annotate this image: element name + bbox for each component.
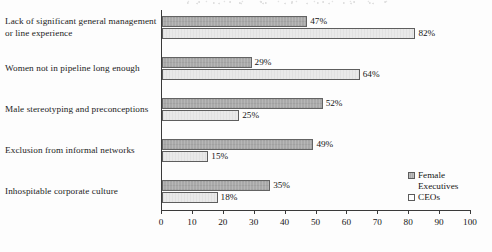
legend-label-line: Female	[418, 170, 458, 181]
x-axis-tick	[316, 210, 317, 214]
x-axis-tick-label: 30	[249, 216, 258, 228]
category-label: Inhospitable corporate culture	[5, 186, 157, 197]
bar	[162, 192, 218, 203]
x-axis-tick	[192, 210, 193, 214]
x-axis-tick-label: 40	[280, 216, 289, 228]
bar	[162, 151, 208, 162]
scan-noise-artifact	[180, 0, 390, 5]
bar-value-label: 29%	[255, 57, 272, 68]
legend-swatch	[408, 194, 415, 201]
category-label: Exclusion from informal networks	[5, 145, 157, 156]
bar	[162, 180, 270, 191]
x-axis-tick-label: 20	[218, 216, 227, 228]
x-axis-tick-label: 60	[342, 216, 351, 228]
x-axis-tick	[161, 210, 162, 214]
x-axis-tick	[254, 210, 255, 214]
chart-legend: FemaleExecutivesCEOs	[408, 170, 486, 204]
x-axis-tick-label: 0	[159, 216, 164, 228]
x-axis-tick-label: 50	[311, 216, 320, 228]
legend-swatch	[408, 172, 415, 179]
x-axis-tick	[470, 210, 471, 214]
legend-item: FemaleExecutives	[408, 170, 486, 191]
category-axis-labels: Lack of significant general managementor…	[0, 10, 158, 210]
bar-value-label: 25%	[242, 110, 259, 121]
category-label-line: Women not in pipeline long enough	[5, 63, 157, 74]
bar	[162, 139, 313, 150]
legend-label-line: Executives	[418, 181, 458, 192]
bar-value-label: 64%	[363, 69, 380, 80]
x-axis-tick-label: 80	[404, 216, 413, 228]
legend-item: CEOs	[408, 192, 486, 203]
bar	[162, 69, 360, 80]
x-axis-tick	[377, 210, 378, 214]
x-axis-tick-label: 90	[435, 216, 444, 228]
category-label-line: Exclusion from informal networks	[5, 145, 157, 156]
category-label-line: Lack of significant general management	[5, 16, 157, 27]
bar	[162, 16, 307, 27]
x-axis-tick	[408, 210, 409, 214]
bar-value-label: 52%	[326, 98, 343, 109]
bar	[162, 28, 415, 39]
bar-group: 49%15%	[162, 139, 470, 162]
bar	[162, 57, 252, 68]
bar	[162, 110, 239, 121]
legend-label-line: CEOs	[418, 192, 440, 203]
category-label-line: Inhospitable corporate culture	[5, 186, 157, 197]
legend-label: CEOs	[418, 192, 440, 203]
category-label: Lack of significant general managementor…	[5, 16, 157, 39]
x-axis-tick	[439, 210, 440, 214]
bar-value-label: 18%	[221, 192, 238, 203]
legend-label: FemaleExecutives	[418, 170, 458, 191]
category-label-line: Male stereotyping and preconceptions	[5, 104, 157, 115]
x-axis-ticks	[161, 210, 470, 215]
category-label: Women not in pipeline long enough	[5, 63, 157, 74]
category-label-line: or line experience	[5, 28, 157, 39]
grouped-bar-chart: Lack of significant general managementor…	[0, 0, 492, 252]
bar-group: 47%82%	[162, 16, 470, 39]
x-axis-tick	[223, 210, 224, 214]
x-axis-tick-label: 10	[187, 216, 196, 228]
bar-group: 29%64%	[162, 57, 470, 80]
x-axis-tick-label: 70	[373, 216, 382, 228]
bar	[162, 98, 323, 109]
bar-value-label: 15%	[211, 151, 228, 162]
category-label: Male stereotyping and preconceptions	[5, 104, 157, 115]
bar-value-label: 35%	[273, 180, 290, 191]
x-axis-tick	[285, 210, 286, 214]
x-axis-tick	[346, 210, 347, 214]
bar-value-label: 47%	[310, 16, 327, 27]
bar-value-label: 82%	[418, 28, 435, 39]
x-axis-tick-labels: 0102030405060708090100	[161, 216, 470, 230]
bar-group: 52%25%	[162, 98, 470, 121]
x-axis-tick-label: 100	[463, 216, 477, 228]
bar-value-label: 49%	[316, 139, 333, 150]
